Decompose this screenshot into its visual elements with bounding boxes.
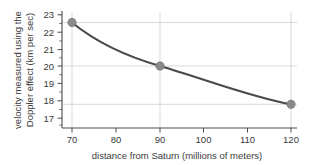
y-tick-label-17: 17 (43, 113, 54, 124)
data-point-120 (287, 100, 295, 108)
x-tick-label-110: 110 (240, 134, 255, 145)
x-tick-label-90: 90 (155, 134, 166, 145)
y-tick-label-22: 22 (43, 27, 54, 38)
x-tick-label-70: 70 (67, 134, 78, 145)
x-tick-label-120: 120 (283, 134, 299, 145)
y-tick-label-18: 18 (43, 95, 54, 106)
data-point-90 (156, 62, 164, 70)
y-tick-label-21: 21 (43, 44, 54, 55)
x-axis-title: distance from Saturn (millions of meters… (92, 150, 263, 161)
x-tick-label-80: 80 (111, 134, 122, 145)
y-tick-label-20: 20 (43, 61, 54, 72)
y-axis-title-line1: velocity measured using the (12, 11, 23, 129)
y-tick-label-19: 19 (43, 78, 54, 89)
data-point-70 (68, 18, 76, 26)
chart-figure: 23 22 21 20 19 18 17 70 80 90 100 110 12… (0, 0, 311, 165)
y-tick-label-23: 23 (43, 9, 54, 20)
y-axis-title-line2: Doppler effect (km per sec) (24, 13, 35, 127)
velocity-vs-distance-line-chart: 23 22 21 20 19 18 17 70 80 90 100 110 12… (0, 0, 311, 165)
x-tick-label-100: 100 (196, 134, 212, 145)
